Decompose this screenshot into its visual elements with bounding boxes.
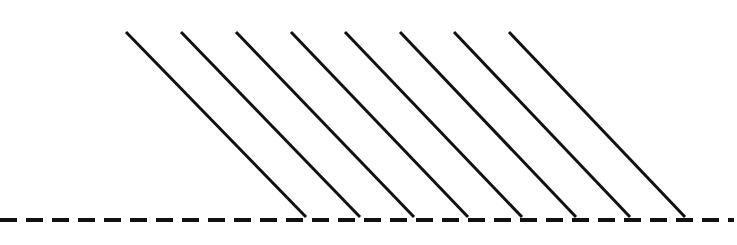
figure-background	[0, 0, 737, 245]
figure-canvas	[0, 0, 737, 245]
figure-svg	[0, 0, 737, 245]
